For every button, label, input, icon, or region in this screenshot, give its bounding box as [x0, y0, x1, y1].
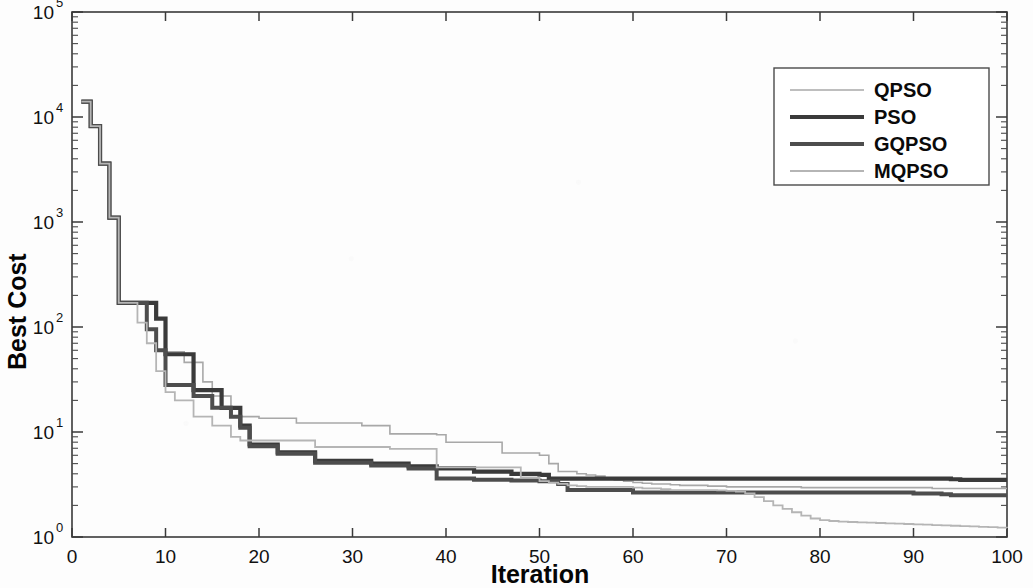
- x-tick-label: 90: [903, 546, 924, 567]
- x-tick-label: 70: [716, 546, 737, 567]
- x-tick-label: 10: [155, 546, 176, 567]
- legend: QPSOPSOGQPSOMQPSO: [774, 68, 989, 185]
- legend-label-mqpso: MQPSO: [874, 160, 948, 182]
- y-tick-label: 10: [33, 107, 54, 128]
- y-tick-label: 10: [33, 527, 54, 548]
- legend-label-qpso: QPSO: [874, 79, 932, 101]
- y-tick-label: 10: [33, 422, 54, 443]
- x-tick-label: 40: [435, 546, 456, 567]
- x-tick-label: 30: [342, 546, 363, 567]
- x-tick-label: 0: [67, 546, 78, 567]
- y-axis-tick-labels: 100101102103104105: [33, 0, 63, 548]
- legend-label-pso: PSO: [874, 106, 916, 128]
- y-tick-label-exponent: 0: [56, 520, 63, 535]
- best-cost-convergence-chart: 100101102103104105 010203040506070809010…: [0, 0, 1033, 588]
- y-tick-label: 10: [33, 2, 54, 23]
- y-axis-title: Best Cost: [3, 253, 31, 370]
- x-tick-label: 60: [622, 546, 643, 567]
- figure-container: 100101102103104105 010203040506070809010…: [0, 0, 1033, 588]
- x-tick-label: 80: [809, 546, 830, 567]
- x-tick-label: 100: [991, 546, 1023, 567]
- x-axis-title: Iteration: [491, 560, 590, 588]
- legend-label-gqpso: GQPSO: [874, 133, 947, 155]
- y-tick-label-exponent: 4: [56, 100, 63, 115]
- y-tick-label-exponent: 2: [56, 310, 63, 325]
- y-tick-label-exponent: 1: [56, 415, 63, 430]
- x-tick-label: 20: [248, 546, 269, 567]
- y-tick-label: 10: [33, 212, 54, 233]
- y-tick-label: 10: [33, 317, 54, 338]
- y-tick-label-exponent: 5: [56, 0, 63, 10]
- y-tick-label-exponent: 3: [56, 205, 63, 220]
